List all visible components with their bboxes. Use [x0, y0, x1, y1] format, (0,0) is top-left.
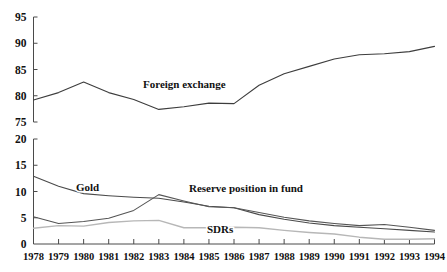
y-tick-label-lower: 15	[15, 159, 27, 171]
chart-container: 9590858075201510501978197919801981198219…	[0, 0, 447, 272]
x-tick-label: 1993	[399, 251, 420, 262]
x-tick-label: 1984	[173, 251, 195, 262]
x-tick-label: 1985	[198, 251, 219, 262]
x-tick-label: 1988	[274, 251, 295, 262]
x-tick-label: 1992	[374, 251, 395, 262]
y-tick-label-lower: 20	[15, 133, 27, 145]
series-group	[34, 46, 435, 239]
y-tick-label-upper: 75	[15, 116, 27, 128]
series-line-sdrs	[34, 220, 435, 239]
x-tick-label: 1982	[123, 251, 144, 262]
x-tick-label: 1989	[299, 251, 320, 262]
x-tick-label: 1983	[148, 251, 169, 262]
y-tick-label-lower: 10	[15, 186, 27, 198]
y-tick-label-lower: 0	[21, 238, 27, 250]
x-tick-label: 1978	[23, 251, 44, 262]
x-tick-label: 1990	[324, 251, 345, 262]
x-tick-label: 1991	[349, 251, 370, 262]
x-tick-label: 1981	[98, 251, 119, 262]
series-label-reserve-position-in-fund: Reserve position in fund	[189, 182, 303, 194]
y-tick-label-lower: 5	[21, 212, 27, 224]
y-tick-label-upper: 85	[15, 64, 27, 76]
y-tick-label-upper: 90	[15, 37, 27, 49]
x-tick-label: 1987	[249, 251, 270, 262]
y-tick-label-upper: 80	[15, 90, 27, 102]
series-line-foreign-exchange	[34, 46, 435, 109]
x-tick-label: 1994	[424, 251, 446, 262]
series-label-sdrs: SDRs	[207, 223, 234, 235]
x-tick-label: 1980	[73, 251, 94, 262]
annotations-group: Foreign exchangeForeign exchangeGoldGold…	[76, 78, 303, 235]
x-tick-label: 1986	[224, 251, 245, 262]
x-tick-label: 1979	[48, 251, 69, 262]
series-label-gold: Gold	[76, 181, 99, 193]
y-tick-label-upper: 95	[15, 11, 27, 23]
line-chart: 9590858075201510501978197919801981198219…	[0, 0, 447, 272]
series-label-foreign-exchange: Foreign exchange	[143, 78, 226, 90]
